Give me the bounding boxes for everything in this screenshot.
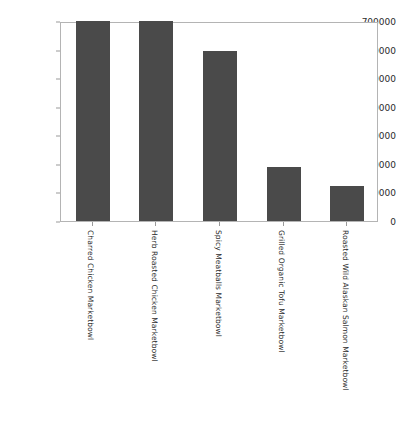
y-axis-tick-label: 0 [390, 217, 396, 227]
bar [203, 51, 237, 221]
x-axis-tick-label: Charred Chicken Marketbowl [86, 230, 95, 340]
x-axis-tick-label: Grilled Organic Tofu Marketbowl [277, 230, 286, 353]
chart-title [0, 0, 404, 5]
x-axis-tick-mark [283, 222, 284, 226]
bar [139, 21, 173, 221]
plot-area [60, 22, 378, 222]
x-axis-tick-mark [346, 222, 347, 226]
bar-chart-figure: 0100000200000300000400000500000600000700… [0, 0, 404, 439]
bar [330, 186, 364, 221]
x-axis-tick-mark [92, 222, 93, 226]
x-axis-tick-label: Roasted Wild Alaskan Salmon Marketbowl [341, 230, 350, 391]
x-axis-tick-mark [219, 222, 220, 226]
bars-layer [61, 23, 377, 221]
bar [267, 167, 301, 221]
x-axis-tick-mark [155, 222, 156, 226]
bar [76, 21, 110, 221]
x-axis-tick-label: Herb Roasted Chicken Marketbowl [150, 230, 159, 362]
x-axis-tick-label: Spicy Meatballs Marketbowl [214, 230, 223, 337]
